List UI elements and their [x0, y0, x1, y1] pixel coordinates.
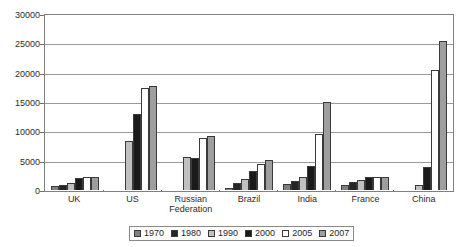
x-axis-category-label: Brazil [220, 194, 278, 214]
bar [307, 166, 315, 190]
y-axis-tick-label: 5000 [20, 157, 40, 167]
y-axis-tick-label: 15000 [15, 98, 40, 108]
bar [67, 183, 75, 190]
bar [133, 114, 141, 190]
y-axis: 050001000015000200002500030000 [0, 14, 40, 192]
bar-group [336, 16, 394, 190]
bar [241, 179, 249, 190]
legend-swatch-icon [319, 230, 326, 237]
bar [357, 180, 365, 190]
bar [125, 141, 133, 190]
bar [373, 177, 381, 190]
bar [265, 160, 273, 190]
legend-swatch-icon [134, 230, 141, 237]
legend-item[interactable]: 2007 [319, 229, 349, 238]
bar [233, 183, 241, 190]
x-axis-tick [335, 190, 336, 192]
bar [299, 177, 307, 190]
x-axis-category-label: France [336, 194, 394, 214]
x-axis-tick [161, 190, 162, 192]
bar [191, 158, 199, 190]
plot-area [44, 14, 454, 192]
legend-swatch-icon [245, 230, 252, 237]
legend-item[interactable]: 2000 [245, 229, 275, 238]
bar [423, 167, 431, 190]
bar-chart: 050001000015000200002500030000 UKUSRussi… [0, 0, 462, 247]
bar [249, 171, 257, 190]
legend-label: 2007 [329, 229, 349, 238]
bar [141, 88, 149, 190]
y-axis-tick-label: 30000 [15, 10, 40, 20]
bar [283, 184, 291, 190]
bar [207, 136, 215, 190]
bar [199, 138, 207, 190]
bar [365, 177, 373, 190]
bar-group [162, 16, 220, 190]
x-axis-tick [103, 190, 104, 192]
bar [439, 41, 447, 190]
chart-legend: 197019801990200020052007 [129, 226, 354, 241]
bar-group [220, 16, 278, 190]
bar [149, 86, 157, 190]
x-axis-tick [219, 190, 220, 192]
bar [257, 164, 265, 190]
bar [183, 157, 191, 190]
legend-item[interactable]: 1970 [134, 229, 164, 238]
x-axis-category-label: US [103, 194, 161, 214]
y-axis-tick-label: 20000 [15, 69, 40, 79]
legend-swatch-icon [208, 230, 215, 237]
x-axis-tick [393, 190, 394, 192]
legend-swatch-icon [282, 230, 289, 237]
y-axis-tick-label: 10000 [15, 127, 40, 137]
bar [323, 102, 331, 190]
x-axis-category-label: RussianFederation [162, 194, 220, 214]
bar [315, 134, 323, 190]
bar [349, 182, 357, 190]
bar [91, 177, 99, 190]
bar [75, 178, 83, 190]
legend-label: 1970 [144, 229, 164, 238]
bar [291, 181, 299, 190]
legend-item[interactable]: 2005 [282, 229, 312, 238]
legend-item[interactable]: 1990 [208, 229, 238, 238]
bar [431, 70, 439, 190]
x-axis-labels: UKUSRussianFederationBrazilIndiaFranceCh… [45, 194, 453, 214]
x-axis-tick [277, 190, 278, 192]
y-axis-tick-label: 25000 [15, 39, 40, 49]
bar-groups [46, 16, 452, 190]
x-axis-category-label: India [278, 194, 336, 214]
legend-label: 1980 [181, 229, 201, 238]
legend-label: 2000 [255, 229, 275, 238]
legend-label: 2005 [292, 229, 312, 238]
bar-group [278, 16, 336, 190]
bar [225, 188, 233, 190]
plot-area-wrapper [44, 14, 454, 192]
legend-swatch-icon [171, 230, 178, 237]
legend-label: 1990 [218, 229, 238, 238]
legend-item[interactable]: 1980 [171, 229, 201, 238]
bar-group [394, 16, 452, 190]
bar [381, 177, 389, 190]
x-axis-category-label: China [395, 194, 453, 214]
bar [83, 177, 91, 190]
x-axis-category-label: UK [45, 194, 103, 214]
bar [415, 185, 423, 190]
bar [59, 185, 67, 190]
bar-group [46, 16, 104, 190]
bar-group [104, 16, 162, 190]
bar [341, 185, 349, 190]
bar [51, 186, 59, 190]
